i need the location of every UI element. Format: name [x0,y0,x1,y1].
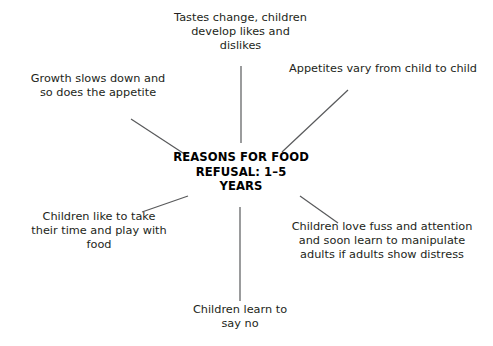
node-appetites-vary: Appetites vary from child to child [285,62,481,76]
node-children-take-time: Children like to take their time and pla… [23,210,175,253]
node-children-love-fuss: Children love fuss and attention and soo… [286,220,478,263]
node-growth-slows-down: Growth slows down and so does the appeti… [12,72,184,100]
connector-bottomright [300,196,338,223]
connector-topright [282,90,348,152]
center-title: REASONS FOR FOOD REFUSAL: 1–5 YEARS [171,150,311,194]
node-children-learn-say-no: Children learn to say no [181,303,299,331]
diagram-canvas: Tastes change, children develop likes an… [0,0,493,346]
node-tastes-change: Tastes change, children develop likes an… [163,11,318,54]
